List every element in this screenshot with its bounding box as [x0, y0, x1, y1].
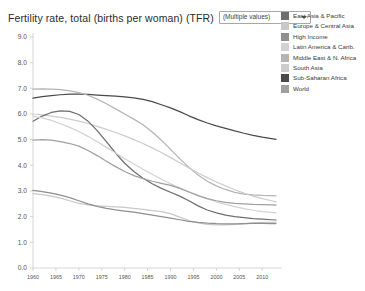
y-axis-tick-label: 0.0 — [18, 264, 27, 271]
y-axis-tick-label: 5.0 — [18, 136, 27, 143]
x-axis-tick-label: 1990 — [165, 274, 177, 280]
y-axis-tick-label: 3.0 — [18, 187, 27, 194]
x-axis-tick-label: 1975 — [96, 274, 108, 280]
x-axis-tick-label: 2010 — [256, 274, 268, 280]
y-axis-tick-label: 9.0 — [18, 33, 27, 40]
chart-app: Fertility rate, total (births per woman)… — [0, 0, 365, 291]
series-line[interactable] — [33, 89, 276, 196]
x-axis-tick-label: 1995 — [187, 274, 199, 280]
x-axis-tick-label: 1970 — [73, 274, 85, 280]
x-axis-tick-label: 1965 — [50, 274, 62, 280]
y-axis-tick-label: 8.0 — [18, 59, 27, 66]
y-axis-tick-label: 4.0 — [18, 162, 27, 169]
y-axis-tick-label: 1.0 — [18, 239, 27, 246]
series-line[interactable] — [33, 116, 276, 213]
series-line[interactable] — [33, 194, 276, 225]
series-line[interactable] — [33, 94, 276, 139]
y-axis-tick-label: 6.0 — [18, 110, 27, 117]
x-axis-tick-label: 1985 — [142, 274, 154, 280]
line-chart: 0.01.02.03.04.05.06.07.08.09.01960196519… — [0, 0, 365, 291]
y-axis-tick-label: 7.0 — [18, 85, 27, 92]
x-axis-tick-label: 2000 — [210, 274, 222, 280]
x-axis-tick-label: 2005 — [233, 274, 245, 280]
x-axis-tick-label: 1960 — [27, 274, 39, 280]
chart-plot-area: 0.01.02.03.04.05.06.07.08.09.01960196519… — [0, 0, 365, 291]
x-axis-tick-label: 1980 — [119, 274, 131, 280]
y-axis-tick-label: 2.0 — [18, 213, 27, 220]
